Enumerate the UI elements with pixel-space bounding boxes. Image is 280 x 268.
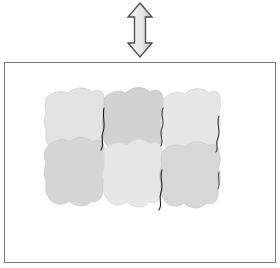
cell-tiling [42,86,222,222]
cell-r2-c2 [102,140,163,207]
vertical-double-headed-arrow [124,1,156,59]
cell-r2-c3 [159,142,220,208]
cell-r2-c1 [44,138,105,206]
arrow-shape [128,3,152,57]
diagram-canvas [0,0,280,268]
